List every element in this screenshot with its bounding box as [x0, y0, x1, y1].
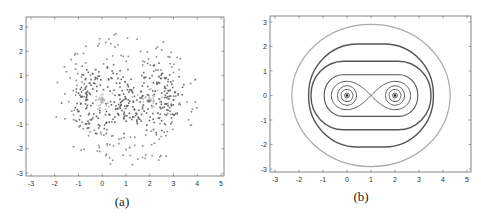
x-tick-label: -3: [272, 176, 278, 183]
y-tick-label: 3: [19, 24, 23, 31]
y-tick-label: -1: [261, 117, 267, 124]
plot-frame-b: [270, 16, 471, 172]
y-tick-label: 0: [19, 97, 23, 104]
caption-b: (b): [353, 189, 368, 204]
y-tick-label: -3: [17, 170, 23, 177]
minimum-marker: [346, 94, 349, 97]
x-tick-label: 5: [219, 180, 223, 187]
y-tick-label: 1: [19, 72, 23, 79]
x-tick-label: -1: [320, 176, 326, 183]
caption-a: (a): [115, 194, 129, 209]
x-tick-label: 2: [393, 176, 397, 183]
x-tick-label: 3: [172, 180, 176, 187]
x-tick-label: 5: [465, 176, 469, 183]
x-tick-label: 1: [369, 176, 373, 183]
x-tick-label: -1: [75, 180, 81, 187]
figure: -3-2-1012345-3-2-10123 (a) -3-2-1012345-…: [0, 0, 481, 221]
y-tick-label: 0: [263, 92, 267, 99]
x-tick-label: 0: [100, 180, 104, 187]
x-tick-label: 2: [148, 180, 152, 187]
y-tick-label: 1: [263, 68, 267, 75]
y-tick-label: 3: [263, 19, 267, 26]
x-tick-label: 1: [124, 180, 128, 187]
y-tick-label: -1: [17, 121, 23, 128]
x-tick-label: 3: [417, 176, 421, 183]
y-tick-label: -2: [17, 145, 23, 152]
x-tick-label: 4: [195, 180, 199, 187]
panel-a: -3-2-1012345-3-2-10123 (a): [17, 17, 224, 209]
x-tick-label: 4: [441, 176, 445, 183]
y-tick-label: -3: [261, 166, 267, 173]
panel-b: -3-2-1012345-3-2-10123 (b): [261, 16, 471, 204]
y-tick-label: 2: [19, 48, 23, 55]
x-tick-label: 0: [345, 176, 349, 183]
y-tick-label: -2: [261, 141, 267, 148]
y-tick-label: 2: [263, 43, 267, 50]
x-tick-label: -2: [296, 176, 302, 183]
x-tick-label: -2: [52, 180, 58, 187]
x-tick-label: -3: [28, 180, 34, 187]
minimum-marker: [394, 94, 397, 97]
